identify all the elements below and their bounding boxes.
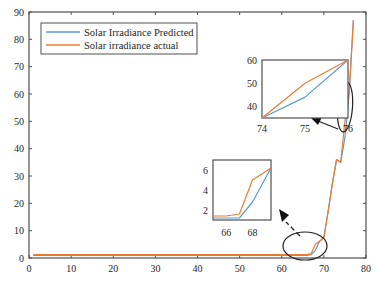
inset-x-tick-label: 68 xyxy=(248,227,258,238)
legend-label-actual: Solar irradiance actual xyxy=(84,40,179,51)
y-tick-label: 80 xyxy=(14,34,24,45)
inset-y-tick-label: 50 xyxy=(247,78,257,89)
inset-y-tick-label: 40 xyxy=(247,101,257,112)
x-tick-label: 70 xyxy=(319,263,329,274)
x-tick-label: 30 xyxy=(150,263,160,274)
inset-x-tick-label: 66 xyxy=(221,227,231,238)
x-tick-label: 40 xyxy=(193,263,203,274)
y-tick-label: 90 xyxy=(14,7,24,18)
y-tick-label: 10 xyxy=(14,225,24,236)
inset-bottom-frame xyxy=(213,160,271,220)
x-tick-label: 80 xyxy=(361,263,371,274)
inset-x-tick-label: 75 xyxy=(300,123,310,134)
y-tick-label: 70 xyxy=(14,61,24,72)
x-tick-label: 0 xyxy=(27,263,32,274)
x-tick-label: 20 xyxy=(108,263,118,274)
inset-x-tick-label: 74 xyxy=(257,123,267,134)
y-tick-label: 60 xyxy=(14,89,24,100)
solar-irradiance-chart: 01020304050607080 0102030405060708090 So… xyxy=(0,0,376,285)
y-tick-label: 40 xyxy=(14,143,24,154)
inset-x-tick-label: 76 xyxy=(343,123,353,134)
y-tick-label: 30 xyxy=(14,171,24,182)
x-tick-label: 60 xyxy=(277,263,287,274)
x-tick-label: 50 xyxy=(235,263,245,274)
inset-y-tick-label: 6 xyxy=(203,165,208,176)
inset-y-tick-label: 60 xyxy=(247,55,257,66)
legend: Solar Irradiance Predicted Solar irradia… xyxy=(41,23,197,54)
y-tick-label: 20 xyxy=(14,198,24,209)
inset-top-frame xyxy=(262,60,348,118)
x-tick-label: 10 xyxy=(66,263,76,274)
y-tick-label: 50 xyxy=(14,116,24,127)
y-tick-label: 0 xyxy=(19,253,24,264)
inset-y-tick-label: 4 xyxy=(203,185,208,196)
legend-label-predicted: Solar Irradiance Predicted xyxy=(84,27,194,38)
inset-y-tick-label: 2 xyxy=(203,205,208,216)
